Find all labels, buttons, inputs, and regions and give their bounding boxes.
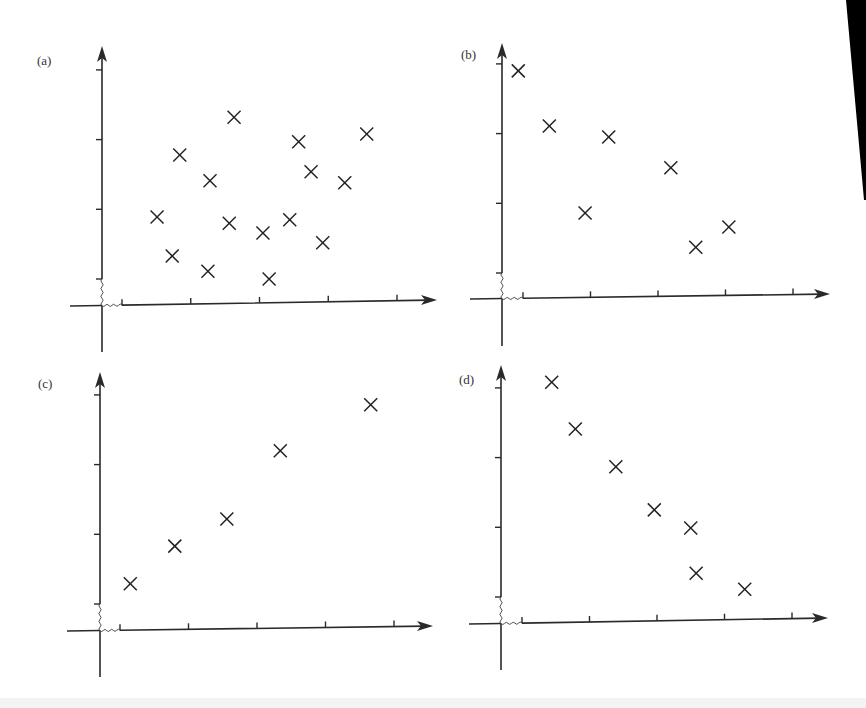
page-background: [0, 0, 866, 708]
panel-label: (a): [37, 53, 51, 68]
panel-label: (c): [38, 376, 52, 391]
panel-label: (b): [461, 47, 476, 62]
panel-label: (d): [459, 372, 474, 387]
scan-band: [0, 698, 866, 708]
scatter-figure: (a) (b) (c) (d): [0, 0, 866, 708]
